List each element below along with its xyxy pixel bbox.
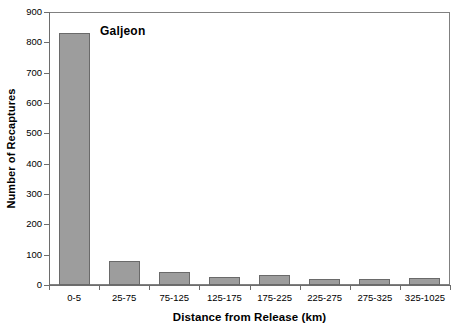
y-axis-tick-label: 500 [0, 128, 42, 138]
y-axis-tick [44, 194, 49, 195]
x-axis-tick-label: 0-5 [67, 292, 81, 303]
chart-figure: Number of Recaptures 0100200300400500600… [0, 0, 463, 336]
plot-area [49, 12, 450, 285]
x-axis-tick [450, 286, 451, 290]
x-axis-tick [350, 286, 351, 290]
x-axis-tick [300, 286, 301, 290]
x-axis-tick [250, 286, 251, 290]
y-axis-line [49, 12, 50, 286]
y-axis-tick [44, 164, 49, 165]
x-axis-tick-label: 25-75 [112, 292, 136, 303]
series-label: Galjeon [100, 24, 145, 38]
bar [409, 278, 440, 285]
x-axis-tick [49, 286, 50, 290]
x-axis-tick [149, 286, 150, 290]
y-axis-tick-labels: 0100200300400500600700800900 [0, 0, 42, 336]
y-axis-tick [44, 73, 49, 74]
x-axis-tick [400, 286, 401, 290]
x-axis-tick-label: 325-1025 [405, 292, 445, 303]
bar [209, 277, 240, 285]
y-axis-tick-label: 400 [0, 159, 42, 169]
x-axis-tick [99, 286, 100, 290]
y-axis-tick [44, 255, 49, 256]
x-axis-tick-label: 225-275 [307, 292, 342, 303]
bar [309, 279, 340, 285]
x-axis-tick-label: 175-225 [257, 292, 292, 303]
y-axis-tick-label: 600 [0, 98, 42, 108]
x-axis-tick-label: 125-175 [207, 292, 242, 303]
y-axis-tick [44, 133, 49, 134]
bar [259, 275, 290, 285]
x-axis-title: Distance from Release (km) [49, 311, 450, 323]
y-axis-tick [44, 12, 49, 13]
bar [109, 261, 140, 285]
y-axis-tick [44, 103, 49, 104]
y-axis-tick-label: 300 [0, 189, 42, 199]
bar [359, 279, 390, 285]
bar [59, 33, 90, 285]
x-axis-tick [199, 286, 200, 290]
y-axis-tick-label: 900 [0, 7, 42, 17]
y-axis-tick [44, 42, 49, 43]
y-axis-tick-label: 100 [0, 250, 42, 260]
y-axis-tick [44, 224, 49, 225]
y-axis-tick-label: 200 [0, 219, 42, 229]
x-axis-tick-label: 75-125 [160, 292, 190, 303]
y-axis-tick-label: 700 [0, 68, 42, 78]
y-axis-tick-label: 0 [0, 280, 42, 290]
y-axis-tick-label: 800 [0, 37, 42, 47]
x-axis-tick-label: 275-325 [357, 292, 392, 303]
bar [159, 272, 190, 285]
